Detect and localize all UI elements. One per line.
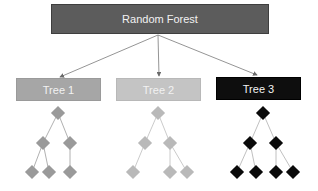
tree-2-box: Tree 2 [116, 78, 201, 101]
arrows [60, 35, 257, 77]
tree-1-label: Tree 1 [43, 84, 74, 96]
arrow-to-tree-3 [158, 35, 257, 75]
tree-3-label: Tree 3 [243, 83, 274, 95]
tree-1-box: Tree 1 [16, 78, 101, 101]
tree-1-nodes [25, 106, 77, 179]
tree-3-nodes [230, 106, 300, 179]
arrow-to-tree-2 [158, 35, 159, 76]
arrow-to-tree-1 [60, 35, 158, 77]
tree-2-nodes [126, 106, 194, 179]
tree-3-box: Tree 3 [216, 77, 301, 100]
random-forest-box: Random Forest [51, 4, 269, 34]
tree-2-label: Tree 2 [143, 84, 174, 96]
random-forest-label: Random Forest [122, 13, 198, 25]
